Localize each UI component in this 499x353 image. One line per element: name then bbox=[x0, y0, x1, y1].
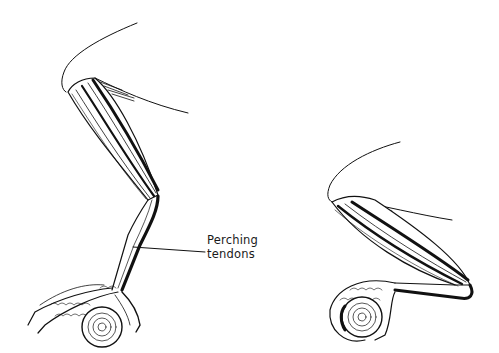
right-leg-bent bbox=[328, 142, 472, 341]
label-line-1: Perching bbox=[207, 233, 258, 247]
left-leg-extended bbox=[28, 23, 205, 347]
perching-tendons-label: Perching tendons bbox=[207, 233, 258, 261]
bird-leg-illustration bbox=[0, 0, 499, 353]
label-line-2: tendons bbox=[207, 247, 258, 261]
